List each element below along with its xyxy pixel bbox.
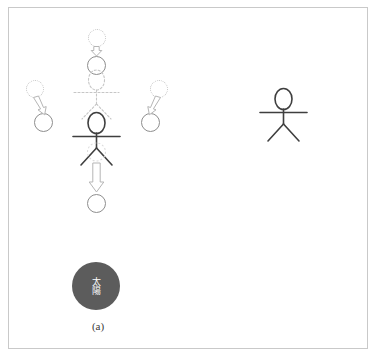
circle-bottom-solid [87, 194, 106, 213]
figure-root: 太陽 (a) (b) [0, 0, 376, 360]
circle-right-solid [141, 113, 160, 132]
sun-label: 太陽 [91, 277, 101, 295]
panel-a-label: (a) [68, 320, 128, 332]
panel-b: (b) [188, 0, 376, 360]
circle-left-ghost [26, 80, 44, 98]
circle-top-solid [87, 56, 106, 75]
circle-top-ghost [88, 29, 106, 47]
sun-marker: 太陽 [72, 262, 120, 310]
panel-a: 太陽 (a) [0, 0, 188, 360]
circle-left-solid [34, 113, 53, 132]
circle-right-ghost [150, 80, 168, 98]
